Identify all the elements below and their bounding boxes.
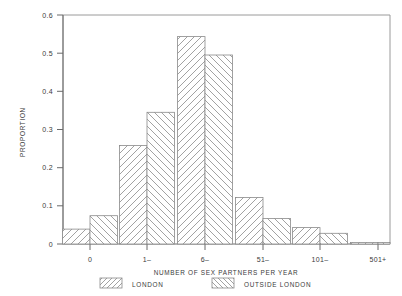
y-tick-label-0.6: 0.6 — [42, 12, 53, 19]
bar-group-501 — [351, 243, 391, 245]
bar-outside-london-0 — [90, 216, 118, 244]
x-tick-label-101: 101– — [312, 256, 329, 263]
x-tick-label-51: 51– — [257, 256, 270, 263]
bar-london-6 — [178, 37, 206, 244]
bar-outside-london-1 — [147, 112, 175, 244]
bar-london-51 — [236, 197, 264, 244]
bar-london-1 — [120, 146, 148, 245]
bar-outside-london-501 — [378, 243, 390, 245]
legend-label-outside-london: OUTSIDE LONDON — [244, 281, 311, 288]
y-axis-title: PROPORTION — [19, 107, 26, 157]
bar-outside-london-6 — [205, 55, 233, 244]
x-tick-label-6: 6– — [201, 256, 209, 263]
bar-outside-london-51 — [263, 218, 291, 244]
bar-london-101 — [293, 228, 321, 244]
hatch-forward-swatch — [100, 278, 122, 288]
chart-figure: 0.6 0.5 0.4 0.3 0.2 0.1 0 0 1– 6– 51– 10… — [0, 0, 402, 296]
bar-london-501 — [351, 243, 379, 245]
x-tick-label-501: 501+ — [370, 256, 387, 263]
y-tick-label-0.1: 0.1 — [42, 202, 53, 209]
y-tick-label-0.3: 0.3 — [42, 126, 53, 133]
legend-label-london: LONDON — [132, 281, 164, 288]
x-tick-label-1: 1– — [143, 256, 151, 263]
bar-group-6 — [178, 37, 233, 244]
y-tick-label-0.2: 0.2 — [42, 164, 53, 171]
hatch-backward-swatch — [212, 278, 234, 288]
y-tick-label-0.4: 0.4 — [42, 88, 53, 95]
bar-london-0 — [63, 229, 91, 244]
y-tick-label-0: 0 — [49, 241, 53, 248]
x-axis-title: NUMBER OF SEX PARTNERS PER YEAR — [154, 269, 299, 276]
bar-chart-svg: 0.6 0.5 0.4 0.3 0.2 0.1 0 0 1– 6– 51– 10… — [0, 0, 402, 296]
x-tick-label-0: 0 — [88, 256, 92, 263]
bar-outside-london-101 — [320, 233, 348, 244]
y-tick-label-0.5: 0.5 — [42, 50, 53, 57]
